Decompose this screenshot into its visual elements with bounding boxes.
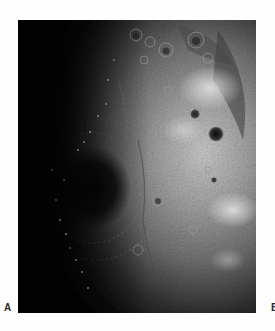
panel-label-b: B: [271, 303, 275, 313]
panel-label-a: A: [4, 303, 11, 313]
moon-photograph: [18, 20, 256, 313]
figure-panel-a: [18, 20, 256, 313]
document-page: A B: [0, 0, 275, 331]
